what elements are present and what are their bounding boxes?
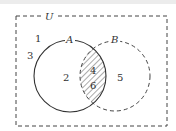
intersection-element-4: 4 bbox=[90, 65, 96, 76]
set-b-label: B bbox=[110, 34, 118, 45]
outside-element-3: 3 bbox=[27, 50, 33, 61]
set-a-label: A bbox=[65, 34, 73, 45]
universe-label: U bbox=[45, 11, 54, 22]
intersection-element-6: 6 bbox=[90, 80, 96, 91]
b-only-element-5: 5 bbox=[117, 72, 123, 83]
venn-diagram: U A B 1 3 2 4 6 5 bbox=[0, 0, 176, 131]
outside-element-1: 1 bbox=[35, 33, 41, 44]
a-only-element-2: 2 bbox=[63, 72, 69, 83]
